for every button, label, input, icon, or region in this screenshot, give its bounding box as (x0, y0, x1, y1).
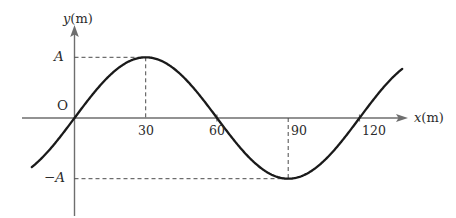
origin-label: O (57, 99, 68, 113)
y-axis-unit: (m) (70, 11, 92, 26)
x-axis-label: x(m) (414, 111, 444, 124)
y-tick-label-negative-a: −A (44, 171, 65, 185)
x-tick-label-90: 90 (291, 125, 307, 138)
y-axis-label: y(m) (63, 12, 93, 25)
plot-canvas (0, 0, 456, 218)
x-tick-label-120: 120 (362, 125, 386, 138)
x-tick-label-60: 60 (209, 125, 225, 138)
wave-graph-figure: y(m) x(m) O A −A 30 60 90 120 (0, 0, 456, 218)
x-axis-unit: (m) (421, 110, 443, 125)
x-tick-label-30: 30 (138, 125, 154, 138)
y-tick-label-a: A (54, 50, 64, 64)
